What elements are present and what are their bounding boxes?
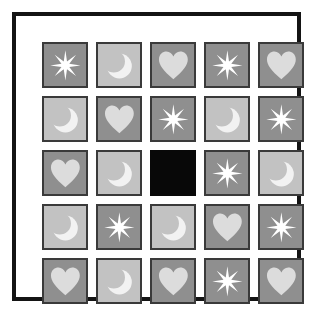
eight-point-star-icon: [211, 265, 244, 298]
heart-icon: [265, 49, 298, 82]
heart-icon: [157, 49, 190, 82]
grid-cell-r5-c3[interactable]: [150, 258, 196, 304]
grid-cell-r4-c4[interactable]: [204, 204, 250, 250]
puzzle-outer-frame: [12, 12, 301, 301]
grid-cell-r2-c4[interactable]: [204, 96, 250, 142]
crescent-moon-icon: [157, 211, 190, 244]
grid-cell-r3-c2[interactable]: [96, 150, 142, 196]
grid-cell-r5-c2[interactable]: [96, 258, 142, 304]
grid-cell-r2-c2[interactable]: [96, 96, 142, 142]
grid-cell-r3-c1[interactable]: [42, 150, 88, 196]
grid-cell-r1-c1[interactable]: [42, 42, 88, 88]
grid-cell-r1-c3[interactable]: [150, 42, 196, 88]
grid-cell-r2-c1[interactable]: [42, 96, 88, 142]
puzzle-stage: [0, 0, 313, 315]
heart-icon: [157, 265, 190, 298]
grid-cell-r2-c3[interactable]: [150, 96, 196, 142]
grid-cell-r3-c4[interactable]: [204, 150, 250, 196]
crescent-moon-icon: [49, 211, 82, 244]
crescent-moon-icon: [49, 103, 82, 136]
grid-cell-r5-c1[interactable]: [42, 258, 88, 304]
blank-missing-cell[interactable]: [150, 150, 196, 196]
grid-cell-r4-c1[interactable]: [42, 204, 88, 250]
heart-icon: [265, 265, 298, 298]
heart-icon: [49, 265, 82, 298]
crescent-moon-icon: [103, 265, 136, 298]
eight-point-star-icon: [49, 49, 82, 82]
grid-cell-r3-c5[interactable]: [258, 150, 304, 196]
grid-cell-r1-c4[interactable]: [204, 42, 250, 88]
eight-point-star-icon: [103, 211, 136, 244]
grid-cell-r5-c5[interactable]: [258, 258, 304, 304]
grid-cell-r4-c2[interactable]: [96, 204, 142, 250]
crescent-moon-icon: [265, 157, 298, 190]
grid-cell-r4-c5[interactable]: [258, 204, 304, 250]
eight-point-star-icon: [211, 157, 244, 190]
eight-point-star-icon: [157, 103, 190, 136]
grid-cell-r1-c2[interactable]: [96, 42, 142, 88]
crescent-moon-icon: [103, 157, 136, 190]
heart-icon: [49, 157, 82, 190]
heart-icon: [211, 211, 244, 244]
grid-cell-r1-c5[interactable]: [258, 42, 304, 88]
grid-cell-r4-c3[interactable]: [150, 204, 196, 250]
puzzle-grid: [42, 42, 304, 304]
eight-point-star-icon: [211, 49, 244, 82]
eight-point-star-icon: [265, 211, 298, 244]
grid-cell-r2-c5[interactable]: [258, 96, 304, 142]
heart-icon: [103, 103, 136, 136]
crescent-moon-icon: [211, 103, 244, 136]
crescent-moon-icon: [103, 49, 136, 82]
eight-point-star-icon: [265, 103, 298, 136]
grid-cell-r5-c4[interactable]: [204, 258, 250, 304]
